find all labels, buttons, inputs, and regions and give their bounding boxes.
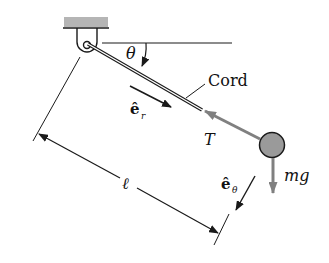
theta-arc — [142, 43, 146, 66]
length-dimension-arrow-right — [137, 188, 218, 233]
e-theta-unit-vector-arrow — [236, 176, 255, 210]
e-r-label: ê — [130, 100, 140, 118]
length-extension-line-top — [33, 57, 80, 141]
tension-label: T — [204, 130, 216, 149]
weight-label: mg — [284, 166, 309, 185]
e-theta-subscript: θ — [232, 185, 238, 195]
length-dimension-arrow-left — [39, 134, 120, 178]
e-theta-label: ê — [221, 175, 231, 193]
cord-leader-line — [186, 84, 205, 98]
theta-label: θ — [126, 44, 136, 63]
cord — [88, 44, 202, 110]
length-extension-line-bottom — [214, 214, 229, 245]
pendulum-bob — [260, 133, 285, 158]
e-r-subscript: r — [141, 111, 146, 121]
pendulum-diagram: θ Cord ê r T mg ê θ ℓ — [0, 0, 329, 263]
length-label: ℓ — [122, 174, 129, 193]
cord-label: Cord — [208, 71, 248, 90]
ceiling-support — [63, 17, 109, 52]
